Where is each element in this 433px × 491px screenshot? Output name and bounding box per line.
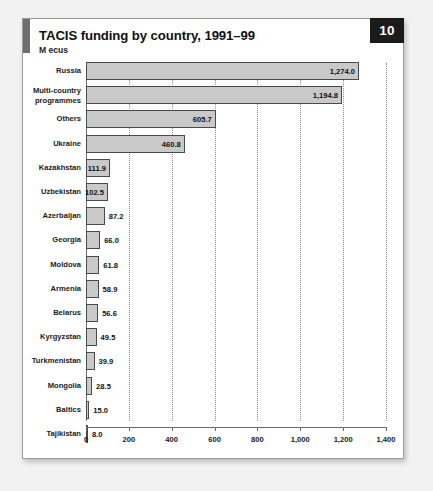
bar[interactable]: 460.8 bbox=[86, 135, 185, 153]
bar-value-label: 102.5 bbox=[85, 188, 104, 197]
bar-row[interactable]: Kyrgyzstan49.5 bbox=[23, 325, 405, 349]
bar-wrapper: 61.8 bbox=[86, 256, 99, 274]
bar-value-label: 61.8 bbox=[103, 260, 118, 269]
x-tick-label: 400 bbox=[165, 435, 178, 444]
category-label: Georgia bbox=[23, 236, 81, 245]
bar-wrapper: 58.9 bbox=[86, 280, 99, 298]
bar-value-label: 460.8 bbox=[162, 139, 181, 148]
bar[interactable] bbox=[86, 401, 89, 419]
chart-card: 10 TACIS funding by country, 1991–99 M e… bbox=[22, 18, 404, 459]
category-label: Turkmenistan bbox=[23, 357, 81, 366]
bar-value-label: 8.0 bbox=[92, 429, 103, 438]
x-tick bbox=[172, 427, 173, 431]
bar-value-label: 56.6 bbox=[102, 308, 117, 317]
category-label: Baltics bbox=[23, 405, 81, 414]
bar[interactable]: 605.7 bbox=[86, 110, 216, 128]
bar[interactable]: 102.5 bbox=[86, 183, 108, 201]
bar[interactable] bbox=[86, 352, 95, 370]
x-tick bbox=[86, 427, 87, 431]
bar[interactable] bbox=[86, 304, 98, 322]
bar[interactable] bbox=[86, 207, 105, 225]
bar-row[interactable]: Turkmenistan39.9 bbox=[23, 349, 405, 373]
x-tick-label: 1,000 bbox=[291, 435, 310, 444]
bar-value-label: 39.9 bbox=[99, 357, 114, 366]
bar[interactable]: 1,274.0 bbox=[86, 62, 359, 80]
bar-wrapper: 111.9 bbox=[86, 159, 110, 177]
bar-row[interactable]: Others605.7 bbox=[23, 107, 405, 131]
bar-row[interactable]: Baltics15.0 bbox=[23, 398, 405, 422]
bar-value-label: 1,194.8 bbox=[313, 91, 338, 100]
x-tick-label: 0 bbox=[84, 435, 88, 444]
x-tick-label: 1,400 bbox=[376, 435, 395, 444]
bar-wrapper: 49.5 bbox=[86, 328, 97, 346]
bar-wrapper: 39.9 bbox=[86, 352, 95, 370]
x-axis-line bbox=[86, 427, 386, 428]
x-tick bbox=[343, 427, 344, 431]
category-label: Others bbox=[23, 115, 81, 124]
bar-value-label: 66.0 bbox=[104, 236, 119, 245]
x-tick-label: 1,200 bbox=[334, 435, 353, 444]
bar-row[interactable]: Georgia66.0 bbox=[23, 228, 405, 252]
bar-value-label: 111.9 bbox=[88, 163, 106, 172]
category-label: Kyrgyzstan bbox=[23, 332, 81, 341]
category-label: Belarus bbox=[23, 308, 81, 317]
bar-wrapper: 28.5 bbox=[86, 377, 92, 395]
bar-row[interactable]: Kazakhstan111.9 bbox=[23, 156, 405, 180]
title-accent-bar bbox=[23, 19, 30, 53]
bar-row[interactable]: Armenia58.9 bbox=[23, 277, 405, 301]
bar-row[interactable]: Russia1,274.0 bbox=[23, 59, 405, 83]
bar-value-label: 605.7 bbox=[193, 115, 212, 124]
bar[interactable] bbox=[86, 256, 99, 274]
bar-wrapper: 56.6 bbox=[86, 304, 98, 322]
category-label: Ukraine bbox=[23, 139, 81, 148]
bar[interactable]: 111.9 bbox=[86, 159, 110, 177]
category-label: Multi-countryprogrammes bbox=[23, 86, 81, 105]
chart-subtitle: M ecus bbox=[39, 45, 68, 55]
category-label: Uzbekistan bbox=[23, 187, 81, 196]
category-label: Moldova bbox=[23, 260, 81, 269]
bar-wrapper: 460.8 bbox=[86, 135, 185, 153]
category-label: Kazakhstan bbox=[23, 163, 81, 172]
x-tick-label: 600 bbox=[208, 435, 221, 444]
bar-value-label: 28.5 bbox=[96, 381, 111, 390]
x-tick bbox=[257, 427, 258, 431]
category-label: Azerbaijan bbox=[23, 212, 81, 221]
category-label: Armenia bbox=[23, 284, 81, 293]
bar-rows: Russia1,274.0Multi-countryprogrammes1,19… bbox=[23, 59, 405, 446]
bar-row[interactable]: Uzbekistan102.5 bbox=[23, 180, 405, 204]
x-tick bbox=[215, 427, 216, 431]
page-number-badge: 10 bbox=[370, 18, 404, 43]
bar-value-label: 1,274.0 bbox=[330, 67, 355, 76]
bar[interactable] bbox=[86, 280, 99, 298]
bar-row[interactable]: Mongolia28.5 bbox=[23, 373, 405, 397]
x-tick bbox=[129, 427, 130, 431]
x-tick bbox=[300, 427, 301, 431]
bar-row[interactable]: Multi-countryprogrammes1,194.8 bbox=[23, 83, 405, 107]
x-tick-label: 800 bbox=[251, 435, 264, 444]
bar[interactable] bbox=[86, 231, 100, 249]
bar-wrapper: 605.7 bbox=[86, 110, 216, 128]
bar-wrapper: 1,194.8 bbox=[86, 86, 342, 104]
x-tick bbox=[386, 427, 387, 431]
category-label: Tajikistan bbox=[23, 429, 81, 438]
bar-wrapper: 102.5 bbox=[86, 183, 108, 201]
plot-area: Russia1,274.0Multi-countryprogrammes1,19… bbox=[23, 59, 405, 459]
bar-row[interactable]: Azerbaijan87.2 bbox=[23, 204, 405, 228]
bar-wrapper: 15.0 bbox=[86, 401, 89, 419]
bar-row[interactable]: Moldova61.8 bbox=[23, 253, 405, 277]
x-tick-label: 200 bbox=[123, 435, 136, 444]
category-label: Russia bbox=[23, 66, 81, 75]
chart-title: TACIS funding by country, 1991–99 bbox=[39, 28, 255, 43]
bar[interactable] bbox=[86, 328, 97, 346]
bar-value-label: 15.0 bbox=[93, 405, 108, 414]
bar-value-label: 87.2 bbox=[109, 212, 124, 221]
bar[interactable] bbox=[86, 377, 92, 395]
bar-row[interactable]: Belarus56.6 bbox=[23, 301, 405, 325]
bar-value-label: 58.9 bbox=[103, 284, 118, 293]
bar[interactable]: 1,194.8 bbox=[86, 86, 342, 104]
bar-row[interactable]: Ukraine460.8 bbox=[23, 132, 405, 156]
bar-wrapper: 1,274.0 bbox=[86, 62, 359, 80]
bar-wrapper: 87.2 bbox=[86, 207, 105, 225]
bar-value-label: 49.5 bbox=[101, 333, 116, 342]
bar-wrapper: 66.0 bbox=[86, 231, 100, 249]
